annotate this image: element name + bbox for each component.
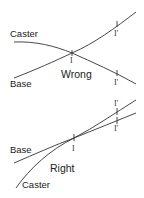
right-upper-prime-label: I' [114, 99, 119, 108]
right-lower-prime-label: I' [114, 124, 119, 133]
wrong-title: Wrong [61, 68, 92, 80]
wrong-diagram: I I' I' Caster Base Wrong [10, 12, 136, 89]
wrong-intersection-label: I [70, 56, 73, 65]
wrong-lower-prime-label: I' [114, 78, 119, 87]
right-title: Right [50, 162, 75, 174]
right-diagram: I I' I' Base Right Caster [10, 99, 136, 190]
right-tangent-label: I [72, 144, 75, 153]
wrong-caster-label: Caster [10, 28, 38, 39]
caster-base-diagram: I I' I' Caster Base Wrong I I' I' Base R… [0, 0, 144, 198]
wrong-upper-prime-label: I' [114, 29, 119, 38]
right-base-curve [14, 113, 136, 163]
wrong-base-label: Base [10, 78, 32, 89]
right-caster-curve [16, 100, 136, 188]
right-caster-label: Caster [22, 179, 50, 190]
right-base-label: Base [10, 144, 32, 155]
